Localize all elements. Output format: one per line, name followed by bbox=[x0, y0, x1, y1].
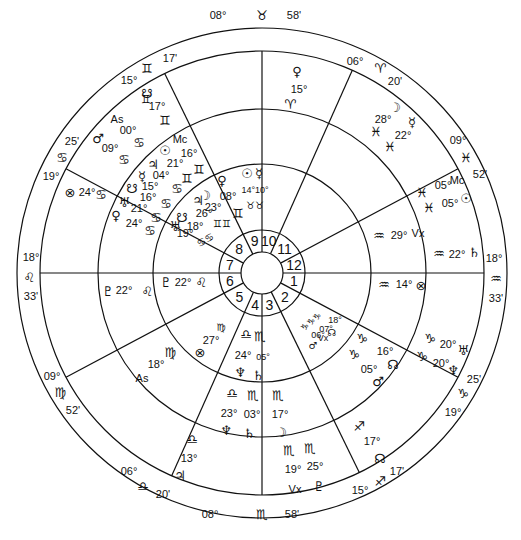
astro-glyph-icon: ♇ bbox=[160, 275, 172, 290]
degree-label: 25° bbox=[307, 460, 324, 472]
astro-glyph-icon: ♇ bbox=[313, 479, 325, 494]
degree-label: 22° bbox=[175, 276, 192, 288]
astro-glyph-icon: ♏ bbox=[254, 329, 266, 344]
astro-glyph-icon: ♊♊ bbox=[213, 218, 231, 229]
degree-label: Vx bbox=[289, 483, 302, 495]
astro-glyph-icon: ♂ bbox=[372, 374, 384, 389]
degree-label: 20° bbox=[440, 338, 457, 350]
astro-glyph-icon: ♉ bbox=[256, 8, 268, 23]
degree-label: 09° bbox=[102, 142, 119, 154]
astro-glyph-icon: ♊ bbox=[159, 113, 171, 128]
astro-glyph-icon: ♊ bbox=[193, 162, 205, 177]
astro-glyph-icon: ☋ bbox=[126, 181, 138, 196]
astro-glyph-icon: ☉ bbox=[241, 166, 253, 181]
degree-label: 29° bbox=[391, 229, 408, 241]
house-number-10: 10 bbox=[261, 233, 277, 249]
house-number-4: 4 bbox=[251, 297, 259, 313]
astro-glyph-icon: ♋ bbox=[118, 152, 130, 167]
degree-label: 20' bbox=[156, 488, 170, 500]
astro-glyph-icon: ⊗ bbox=[195, 345, 206, 360]
degree-label: 24° bbox=[126, 217, 143, 229]
degree-label: 24° bbox=[79, 186, 96, 198]
astro-glyph-icon: ♓ bbox=[423, 200, 435, 215]
astro-glyph-icon: ♊ bbox=[181, 171, 193, 186]
astro-glyph-icon: ♋ bbox=[160, 196, 172, 211]
astro-glyph-icon: ☊ bbox=[328, 327, 337, 338]
house-number-8: 8 bbox=[235, 241, 243, 257]
chart-wheel: 123456789101112 08°♉58'06°♈20'09°♓52'18°… bbox=[0, 0, 521, 540]
astro-glyph-icon: ♋ bbox=[171, 181, 183, 196]
astro-glyph-icon: ☉ bbox=[159, 143, 171, 158]
astro-glyph-icon: ♌ bbox=[141, 284, 153, 299]
degree-label: 15° bbox=[352, 484, 369, 496]
house-number-6: 6 bbox=[226, 273, 234, 289]
degree-label: 19° bbox=[43, 170, 60, 182]
astro-glyph-icon: ♀ bbox=[292, 64, 302, 79]
astro-glyph-icon: ♓ bbox=[460, 150, 472, 165]
astro-glyph-icon: ♋ bbox=[144, 223, 156, 238]
astro-glyph-icon: ♈ bbox=[284, 97, 296, 112]
degree-label: 05° bbox=[256, 352, 270, 362]
degree-label: 06° bbox=[121, 465, 138, 477]
astro-glyph-icon: ♓ bbox=[370, 124, 382, 139]
astro-glyph-icon: ♎ bbox=[226, 386, 238, 401]
degree-label: 15° bbox=[121, 74, 138, 86]
astro-glyph-icon: ♆ bbox=[447, 363, 459, 378]
astro-glyph-icon: ♐ bbox=[374, 474, 386, 489]
astro-glyph-icon: ♓ bbox=[384, 139, 396, 154]
degree-label: 17' bbox=[390, 465, 404, 477]
astro-glyph-icon: ♏ bbox=[283, 443, 295, 458]
astro-glyph-icon: ♀ bbox=[217, 173, 227, 188]
astro-glyph-icon: ♄ bbox=[468, 245, 480, 260]
astro-glyph-icon: ♋ bbox=[133, 135, 145, 150]
astro-glyph-icon: ♏ bbox=[272, 388, 284, 403]
degree-label: Mc bbox=[450, 174, 465, 186]
astro-glyph-icon: ☿ bbox=[255, 166, 263, 181]
degree-label: 52' bbox=[66, 404, 80, 416]
degree-label: 18° bbox=[486, 252, 503, 264]
astro-glyph-icon: ♐ bbox=[353, 419, 365, 434]
degree-label: 06° bbox=[347, 55, 364, 67]
astro-glyph-icon: ♌ bbox=[23, 270, 35, 285]
cusp-line-house-5 bbox=[172, 292, 254, 476]
degree-label: 08° bbox=[220, 190, 237, 202]
house-cusp-lines bbox=[40, 51, 484, 495]
astro-glyph-icon: ♍ bbox=[164, 345, 176, 360]
astro-glyph-icon: ♈ bbox=[374, 61, 386, 76]
astro-glyph-icon: ♏ bbox=[304, 441, 316, 456]
astro-glyph-icon: ♊ bbox=[232, 206, 244, 221]
house-number-5: 5 bbox=[236, 289, 244, 305]
degree-label: 05° bbox=[442, 197, 459, 209]
degree-label: 16° bbox=[377, 345, 394, 357]
horoscope-chart: 123456789101112 08°♉58'06°♈20'09°♓52'18°… bbox=[0, 0, 521, 540]
astro-glyph-icon: ♃ bbox=[174, 468, 186, 483]
degree-label: 17' bbox=[163, 52, 177, 64]
degree-label: 17° bbox=[149, 100, 166, 112]
degree-label: 09° bbox=[450, 134, 467, 146]
astro-glyph-icon: ☋ bbox=[141, 86, 153, 101]
astro-glyph-icon: ☽ bbox=[275, 425, 287, 440]
astro-glyph-icon: ♎ bbox=[240, 327, 252, 342]
astro-glyph-icon: ♄ bbox=[243, 426, 255, 441]
astro-glyph-icon: ♋ bbox=[56, 150, 68, 165]
astro-glyph-icon: ♏ bbox=[256, 507, 268, 522]
astro-glyph-icon: ♑ bbox=[348, 347, 360, 362]
astro-glyph-icon: ♎ bbox=[186, 432, 198, 447]
degree-label: 19° bbox=[445, 406, 462, 418]
astro-glyph-icon: ☉ bbox=[460, 191, 472, 206]
degree-label: 23° bbox=[221, 407, 238, 419]
astro-glyph-icon: ♍ bbox=[217, 322, 226, 333]
astro-glyph-icon: ♒ bbox=[433, 246, 445, 261]
degree-label: 22° bbox=[395, 129, 412, 141]
planet-and-cusp-labels: 08°♉58'06°♈20'09°♓52'18°♒33'25'♑19°17'♐1… bbox=[23, 8, 503, 522]
degree-label: Mc bbox=[173, 133, 188, 145]
degree-label: 26° bbox=[196, 207, 213, 219]
degree-label: 19° bbox=[285, 463, 302, 475]
degree-label: 58' bbox=[285, 508, 299, 520]
degree-label: 14°10° bbox=[241, 185, 269, 195]
house-number-1: 1 bbox=[290, 273, 298, 289]
degree-label: 33' bbox=[489, 292, 503, 304]
house-number-12: 12 bbox=[286, 257, 302, 273]
degree-label: 19° bbox=[177, 227, 194, 239]
degree-label: As bbox=[136, 372, 149, 384]
